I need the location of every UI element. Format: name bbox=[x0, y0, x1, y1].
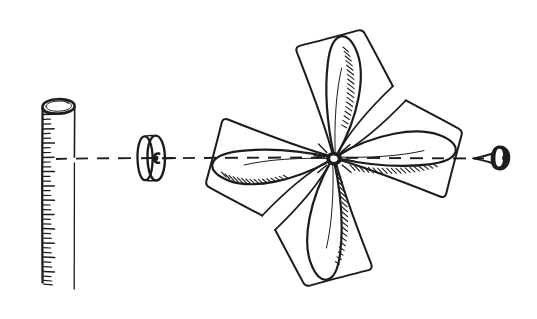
background bbox=[0, 0, 537, 319]
sketch-canvas bbox=[0, 0, 537, 319]
illustration-svg bbox=[0, 0, 537, 319]
